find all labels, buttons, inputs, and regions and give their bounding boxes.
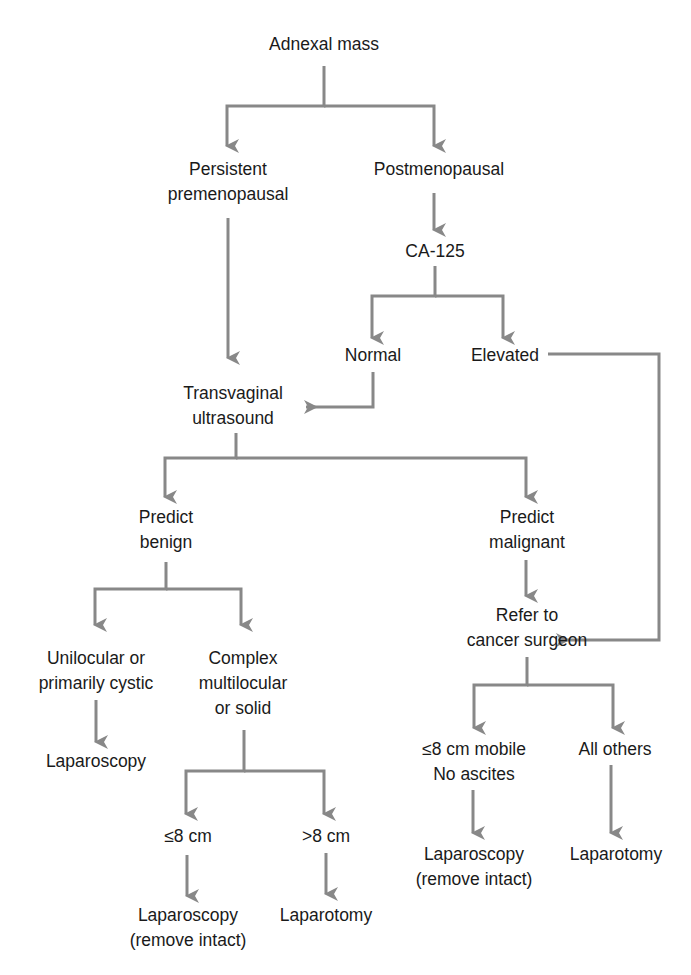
node-label: Predict <box>489 505 565 530</box>
node-postmenopausal: Postmenopausal <box>374 157 504 182</box>
node-adnexal-mass: Adnexal mass <box>269 32 379 57</box>
node-ca125: CA-125 <box>405 239 464 264</box>
node-label: Persistent <box>168 157 289 182</box>
arrow-adnexal-to-postmenopausal <box>324 106 434 146</box>
arrow-elevated-to-refer <box>548 354 659 640</box>
arrow-adnexal-to-premenopausal <box>227 66 324 146</box>
node-label: ≤8 cm <box>164 824 212 849</box>
arrow-benign-to-complex <box>166 589 241 625</box>
flowchart-canvas: Adnexal mass Persistent premenopausal Po… <box>0 0 691 975</box>
node-label: Normal <box>345 343 401 368</box>
arrow-ca125-to-elevated <box>435 296 503 338</box>
node-label: Unilocular or <box>39 646 154 671</box>
node-label: or solid <box>199 696 288 721</box>
arrow-refer-to-all-others <box>527 685 613 728</box>
node-label: Complex <box>199 646 288 671</box>
node-label: Laparotomy <box>280 903 372 928</box>
arrow-tvus-to-benign <box>165 433 236 497</box>
node-le8cm-mobile: ≤8 cm mobile No ascites <box>422 737 526 787</box>
node-label: >8 cm <box>302 824 350 849</box>
node-label: Laparotomy <box>570 842 662 867</box>
node-label: CA-125 <box>405 239 464 264</box>
node-label: malignant <box>489 530 565 555</box>
node-persistent-premenopausal: Persistent premenopausal <box>168 157 289 207</box>
node-label: (remove intact) <box>416 867 533 892</box>
arrow-complex-to-gt8cm <box>244 771 324 814</box>
node-complex: Complex multilocular or solid <box>199 646 288 721</box>
node-predict-benign: Predict benign <box>139 505 193 555</box>
node-label: Refer to <box>467 603 588 628</box>
node-predict-malignant: Predict malignant <box>489 505 565 555</box>
node-label: multilocular <box>199 671 288 696</box>
node-laparotomy-benign: Laparotomy <box>280 903 372 928</box>
node-label: Postmenopausal <box>374 157 504 182</box>
arrow-normal-to-tvus <box>306 372 373 407</box>
node-unilocular: Unilocular or primarily cystic <box>39 646 154 696</box>
node-label: Transvaginal <box>183 381 283 406</box>
node-gt8cm: >8 cm <box>302 824 350 849</box>
node-refer-cancer-surgeon: Refer to cancer surgeon <box>467 603 588 653</box>
node-label: benign <box>139 530 193 555</box>
node-label: primarily cystic <box>39 671 154 696</box>
node-label: ultrasound <box>183 406 283 431</box>
arrow-complex-to-le8cm <box>186 730 244 814</box>
node-label: Laparoscopy <box>416 842 533 867</box>
node-label: Predict <box>139 505 193 530</box>
node-laparoscopy-intact-benign: Laparoscopy (remove intact) <box>130 903 247 953</box>
node-label: Laparoscopy <box>130 903 247 928</box>
node-normal: Normal <box>345 343 401 368</box>
arrow-refer-to-le8cm-mobile <box>474 657 527 728</box>
node-elevated: Elevated <box>471 343 539 368</box>
node-label: premenopausal <box>168 182 289 207</box>
node-label: Elevated <box>471 343 539 368</box>
node-label: All others <box>579 737 652 762</box>
node-label: cancer surgeon <box>467 628 588 653</box>
node-label: No ascites <box>422 762 526 787</box>
arrow-tvus-to-malignant <box>236 458 526 497</box>
node-laparoscopy-benign: Laparoscopy <box>46 749 146 774</box>
node-label: Adnexal mass <box>269 32 379 57</box>
node-label: ≤8 cm mobile <box>422 737 526 762</box>
node-laparoscopy-intact-malignant: Laparoscopy (remove intact) <box>416 842 533 892</box>
arrow-benign-to-unilocular <box>95 562 166 625</box>
node-all-others: All others <box>579 737 652 762</box>
node-label: (remove intact) <box>130 928 247 953</box>
node-le8cm: ≤8 cm <box>164 824 212 849</box>
node-transvaginal-ultrasound: Transvaginal ultrasound <box>183 381 283 431</box>
node-label: Laparoscopy <box>46 749 146 774</box>
arrow-ca125-to-normal <box>372 266 435 338</box>
node-laparotomy-malignant: Laparotomy <box>570 842 662 867</box>
